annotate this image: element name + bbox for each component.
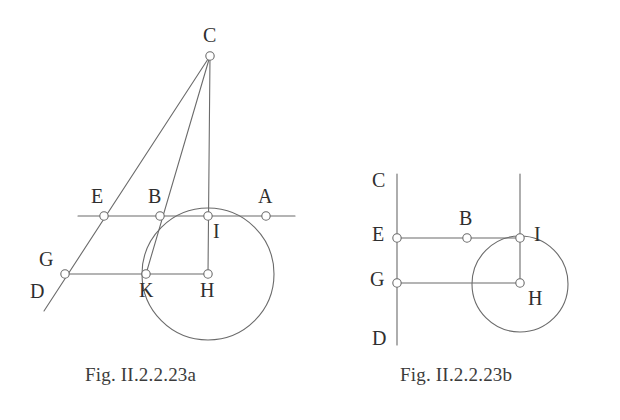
fig-a-point-E-label: E bbox=[91, 186, 103, 206]
fig-a-point-A-marker bbox=[262, 212, 270, 220]
fig-a-point-C-marker bbox=[206, 52, 214, 60]
fig-a-point-E-marker bbox=[100, 212, 108, 220]
fig-b-point-D-label: D bbox=[372, 328, 386, 348]
fig-a-point-K-marker bbox=[142, 270, 150, 278]
fig-b-point-B-marker bbox=[463, 234, 471, 242]
fig-a-point-A-label: A bbox=[258, 186, 272, 206]
fig-b-point-H-label: H bbox=[528, 288, 542, 308]
fig-b-point-C-label: C bbox=[372, 170, 385, 190]
fig-b-point-E-marker bbox=[393, 234, 401, 242]
fig-a-point-D-label: D bbox=[30, 281, 44, 301]
fig-b-point-E-label: E bbox=[372, 224, 384, 244]
fig-b-point-B-label: B bbox=[459, 208, 472, 228]
fig-b-group bbox=[393, 174, 568, 345]
fig-a-point-G-marker bbox=[61, 270, 69, 278]
figure-b-caption: Fig. II.2.2.23b bbox=[400, 364, 512, 386]
fig-b-point-G-marker bbox=[393, 279, 401, 287]
fig-b-point-I-label: I bbox=[534, 224, 541, 244]
fig-b-point-H-marker bbox=[516, 279, 524, 287]
fig-a-point-H-marker bbox=[204, 270, 212, 278]
fig-a-line-CK-oblique bbox=[146, 56, 210, 274]
fig-a-point-I-label: I bbox=[213, 221, 220, 241]
fig-a-line-CH-vertical bbox=[208, 56, 210, 274]
fig-a-point-B-label: B bbox=[148, 186, 161, 206]
fig-a-point-I-marker bbox=[204, 212, 212, 220]
geometry-canvas bbox=[0, 0, 620, 420]
fig-a-point-G-label: G bbox=[39, 249, 53, 269]
figure-a-caption: Fig. II.2.2.23a bbox=[85, 364, 196, 386]
fig-a-point-H-label: H bbox=[200, 280, 214, 300]
fig-a-point-K-label: K bbox=[139, 280, 153, 300]
fig-b-point-I-marker bbox=[516, 234, 524, 242]
fig-b-point-G-label: G bbox=[370, 269, 384, 289]
figure-board: Fig. II.2.2.23a Fig. II.2.2.23b CEBIAGDK… bbox=[0, 0, 620, 420]
fig-a-point-C-label: C bbox=[203, 25, 216, 45]
fig-a-point-B-marker bbox=[156, 212, 164, 220]
